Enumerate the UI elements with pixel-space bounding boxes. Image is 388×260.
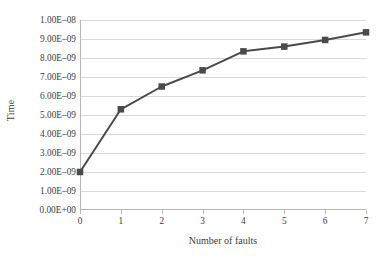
data-series — [80, 20, 366, 210]
x-axis-tickmark — [80, 210, 81, 214]
x-axis-tickmark — [284, 210, 285, 214]
x-axis-tickmark — [121, 210, 122, 214]
plot-area — [80, 20, 366, 210]
x-axis-tick-label: 4 — [231, 216, 255, 226]
data-point-marker — [281, 43, 288, 50]
y-axis-tick-label: 9.00E–09 — [18, 34, 76, 44]
y-axis-tick-label: 2.00E–09 — [18, 167, 76, 177]
y-axis-title-label: Time — [6, 99, 17, 121]
x-axis-tickmark — [325, 210, 326, 214]
x-axis-tickmark — [162, 210, 163, 214]
data-point-marker — [322, 37, 329, 44]
x-axis-tick-label: 0 — [68, 216, 92, 226]
data-point-marker — [118, 106, 125, 113]
y-axis-tick-label: 6.00E–09 — [18, 91, 76, 101]
x-axis-tick-label: 3 — [191, 216, 215, 226]
x-axis-title: Number of faults — [80, 235, 366, 246]
y-axis-tick-label: 1.00E–08 — [18, 15, 76, 25]
data-point-marker — [77, 169, 84, 176]
data-point-marker — [240, 48, 247, 55]
y-axis-tick-labels: 0.00E+001.00E–092.00E–093.00E–094.00E–09… — [18, 14, 76, 210]
x-axis-tick-label: 1 — [109, 216, 133, 226]
y-axis-tick-label: 7.00E–09 — [18, 72, 76, 82]
x-axis-tickmark — [203, 210, 204, 214]
x-axis-tick-label: 2 — [150, 216, 174, 226]
y-axis-tick-label: 4.00E–09 — [18, 129, 76, 139]
y-axis-tick-label: 1.00E–09 — [18, 186, 76, 196]
data-point-marker — [363, 29, 370, 35]
series-line — [80, 32, 366, 172]
data-point-marker — [199, 67, 206, 74]
y-axis-tick-label: 8.00E–09 — [18, 53, 76, 63]
x-axis-tickmark — [366, 210, 367, 214]
line-chart: Time 0.00E+001.00E–092.00E–093.00E–094.0… — [0, 0, 388, 260]
x-axis-tick-label: 5 — [272, 216, 296, 226]
y-axis-tick-label: 0.00E+00 — [18, 205, 76, 215]
data-point-marker — [158, 83, 165, 90]
y-axis-tick-label: 5.00E–09 — [18, 110, 76, 120]
y-axis-tick-label: 3.00E–09 — [18, 148, 76, 158]
x-axis-tick-label: 7 — [354, 216, 378, 226]
x-axis-tickmark — [243, 210, 244, 214]
x-axis-tick-label: 6 — [313, 216, 337, 226]
